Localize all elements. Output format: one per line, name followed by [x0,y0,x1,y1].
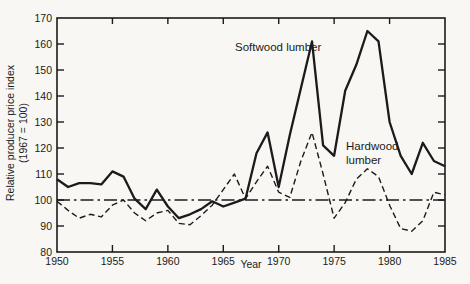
x-tick-label: 1975 [322,255,346,267]
y-tick-label: 110 [35,168,52,180]
lumber-producer-price-index-chart: 8090100110120130140150160170195019551960… [0,0,470,284]
hardwood-series-label: Hardwood lumber [346,140,408,167]
x-axis-label: Year [211,258,291,270]
y-tick-label: 130 [34,116,52,128]
y-tick-label: 90 [40,220,52,232]
x-tick-label: 1980 [378,255,402,267]
y-tick-label: 100 [34,194,52,206]
y-tick-label: 160 [34,38,52,50]
x-tick-label: 1950 [45,255,69,267]
y-axis-label-line1: Relative producer price index [4,38,17,228]
x-tick-label: 1960 [156,255,180,267]
y-tick-label: 140 [34,90,52,102]
y-axis-label-line2: (1967 = 100) [17,38,30,228]
y-axis-label: Relative producer price index (1967 = 10… [4,38,32,228]
x-tick-label: 1985 [433,255,457,267]
y-tick-label: 150 [34,64,52,76]
x-tick-label: 1955 [101,255,125,267]
y-tick-label: 170 [34,12,52,24]
y-tick-label: 120 [34,142,52,154]
softwood-series-label: Softwood lumber [235,41,321,55]
